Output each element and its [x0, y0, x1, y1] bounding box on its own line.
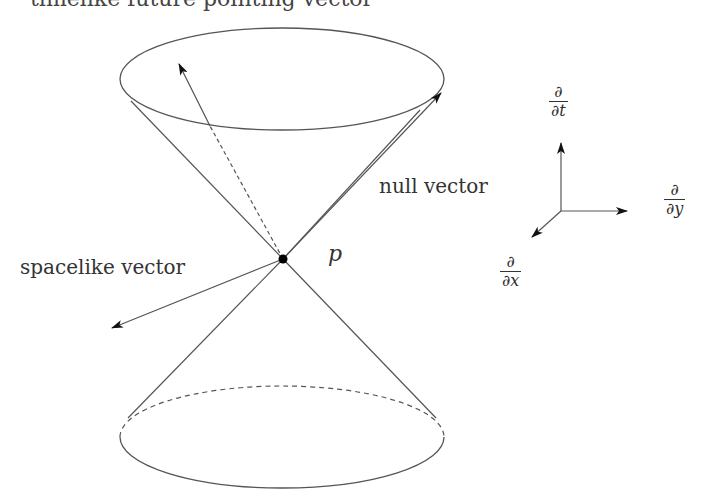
past-cone-right-edge: [283, 259, 436, 418]
timelike-vector-dashed: [210, 126, 283, 259]
light-cone-diagram: timelike future pointing vector null vec…: [0, 0, 705, 501]
axis-t-denominator: ∂t: [549, 102, 568, 120]
axis-t-numerator: ∂: [552, 83, 564, 101]
figure-caption: timelike future pointing vector: [30, 0, 373, 11]
null-vector-label: null vector: [379, 174, 488, 198]
past-cone-left-edge: [128, 259, 283, 418]
axis-x-denominator: ∂x: [500, 272, 521, 290]
axis-x-numerator: ∂: [505, 253, 517, 271]
timelike-vector-arrow: [179, 64, 210, 126]
spacelike-vector-label: spacelike vector: [20, 255, 185, 279]
future-cone-ellipse: [120, 28, 444, 130]
axis-y-label: ∂ ∂y: [664, 180, 685, 218]
axis-y-numerator: ∂: [669, 181, 681, 199]
axis-y-denominator: ∂y: [664, 200, 685, 218]
past-cone-ellipse-front: [120, 437, 444, 488]
light-cone-figure: [0, 0, 705, 501]
point-p-label: p: [328, 241, 342, 266]
axis-x-arrow: [532, 211, 561, 237]
axis-t-label: ∂ ∂t: [549, 82, 568, 120]
past-cone-ellipse-back: [120, 386, 444, 437]
axis-x-label: ∂ ∂x: [500, 252, 521, 290]
event-point: [279, 255, 288, 264]
